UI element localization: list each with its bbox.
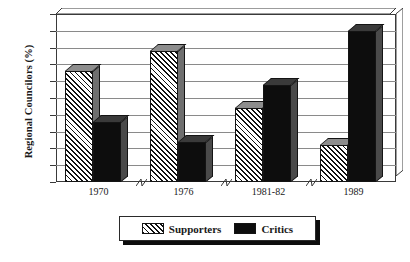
legend-label: Critics <box>261 223 293 235</box>
hatched-swatch <box>142 223 164 234</box>
x-axis-label-1976: 1976 <box>174 186 194 197</box>
bar-front-face <box>150 51 178 182</box>
bar-front-face <box>235 108 263 182</box>
frame-bevel-right-decoration <box>396 8 403 176</box>
bar-supporters-1981-82 <box>235 108 263 182</box>
x-axis-label-1989: 1989 <box>344 186 364 197</box>
bar-front-face <box>320 145 348 182</box>
y-tick-mark <box>50 14 56 15</box>
bar-supporters-1970 <box>65 71 93 182</box>
gridline <box>56 98 396 99</box>
legend-entry-critics[interactable]: Critics <box>234 223 293 235</box>
y-tick-mark <box>50 31 56 32</box>
y-tick-mark <box>50 48 56 49</box>
y-tick-mark <box>50 165 56 166</box>
y-tick-mark <box>50 115 56 116</box>
bar-side-face <box>291 79 298 182</box>
bar-side-face <box>376 25 383 182</box>
y-tick-mark <box>50 182 56 183</box>
y-tick-mark <box>50 148 56 149</box>
y-axis-title: Regional Councilors (%) <box>23 12 34 192</box>
gridline <box>56 31 396 32</box>
bar-front-face <box>348 31 376 182</box>
legend-entry-supporters[interactable]: Supporters <box>142 223 222 235</box>
bar-side-face <box>121 116 128 182</box>
x-axis-label-1970: 1970 <box>89 186 109 197</box>
legend-label: Supporters <box>169 223 222 235</box>
bar-critics-1970 <box>93 122 121 182</box>
y-tick-mark <box>50 81 56 82</box>
bar-supporters-1976 <box>150 51 178 182</box>
gridline <box>56 64 396 65</box>
bar-critics-1976 <box>178 142 206 182</box>
bar-critics-1981-82 <box>263 85 291 182</box>
bar-front-face <box>93 122 121 182</box>
bar-supporters-1989 <box>320 145 348 182</box>
legend-box: SupportersCritics <box>119 216 316 241</box>
gridline <box>56 48 396 49</box>
bar-critics-1989 <box>348 31 376 182</box>
bar-front-face <box>263 85 291 182</box>
bar-front-face <box>65 71 93 182</box>
bar-front-face <box>178 142 206 182</box>
x-axis-label-1981-82: 1981-82 <box>252 186 285 197</box>
solid-black-swatch <box>234 223 256 234</box>
bar-chart: Regional Councilors (%) 0510152025303540… <box>0 0 410 262</box>
y-tick-mark <box>50 132 56 133</box>
plot-area: 05101520253035404550 <box>56 14 396 182</box>
chart-legend: SupportersCritics <box>119 216 316 241</box>
y-tick-mark <box>50 98 56 99</box>
bar-side-face <box>206 136 213 182</box>
gridline <box>56 81 396 82</box>
y-tick-mark <box>50 64 56 65</box>
